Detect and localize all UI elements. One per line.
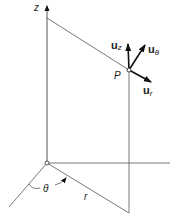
- r-label: r: [84, 191, 88, 202]
- theta-label: θ: [43, 183, 49, 194]
- point-p-label: P: [114, 70, 121, 81]
- u-z-vector: [128, 44, 129, 70]
- point-p: [127, 68, 131, 72]
- z-axis-label: z: [33, 2, 39, 13]
- u-theta-label: uθ: [148, 43, 160, 57]
- cylindrical-coordinates-diagram: θ r z P uz uθ ur: [0, 0, 174, 220]
- u-r-label: ur: [143, 84, 153, 98]
- u-z-label: uz: [111, 39, 122, 52]
- x-axis: [9, 163, 47, 207]
- u-r-vector: [129, 70, 151, 82]
- theta-arc: [29, 184, 40, 189]
- theta-arc-arrow: [55, 178, 66, 185]
- u-theta-vector: [129, 45, 145, 70]
- r-line: [47, 163, 129, 213]
- origin-point: [45, 161, 49, 165]
